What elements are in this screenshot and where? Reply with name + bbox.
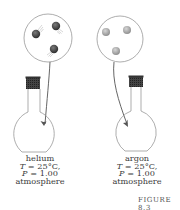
helium-label: helium T = 25°C, P = 1.00 atmosphere	[5, 155, 75, 185]
helium-magnified-view	[24, 14, 72, 62]
helium-panel	[14, 14, 72, 152]
figure-caption: FIGURE 8.3	[138, 196, 180, 210]
helium-atom-icon	[47, 45, 58, 57]
argon-label: argon T = 25°C, P = 1.00 atmosphere	[102, 155, 172, 185]
argon-magnified-view	[97, 16, 143, 62]
argon-panel	[97, 16, 156, 151]
helium-atom-icon	[32, 25, 44, 38]
pressure-unit: atmosphere	[102, 178, 172, 186]
cork-icon	[26, 77, 40, 89]
helium-pointer-arrow	[45, 62, 50, 124]
cork-icon	[129, 76, 143, 87]
argon-atom-icon	[112, 47, 120, 55]
argon-pointer-arrow	[114, 62, 127, 124]
argon-atom-icon	[102, 28, 110, 36]
pressure-unit: atmosphere	[5, 178, 75, 186]
argon-flask	[116, 76, 156, 152]
helium-atom-icon	[52, 22, 63, 34]
argon-atom-icon	[123, 26, 131, 34]
